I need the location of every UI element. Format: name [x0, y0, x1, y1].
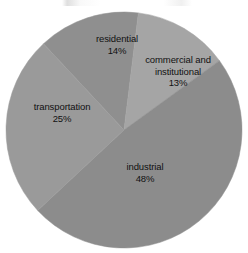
slice-label-transportation-percent: 25%	[16, 113, 108, 125]
slice-label-commercial-name-line1: commercial and	[145, 54, 211, 65]
slice-label-industrial: industrial 48%	[104, 161, 186, 184]
slice-label-commercial-percent: 13%	[136, 77, 220, 89]
slice-label-industrial-percent: 48%	[104, 173, 186, 185]
slice-label-residential-name: residential	[96, 33, 138, 44]
slice-label-transportation-name: transportation	[34, 101, 91, 112]
slice-label-industrial-name: industrial	[126, 161, 163, 172]
slice-label-commercial-and-institutional: commercial and institutional 13%	[136, 54, 220, 89]
slice-label-residential: residential 14%	[79, 33, 155, 56]
slice-label-transportation: transportation 25%	[16, 101, 108, 124]
slice-label-commercial-name-line2: institutional	[136, 66, 220, 78]
pie-chart-figure: residential 14% commercial and instituti…	[0, 0, 248, 253]
